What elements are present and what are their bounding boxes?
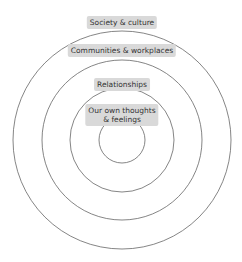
label-communities: Communities & workplaces [68, 44, 176, 57]
concentric-rings [0, 0, 242, 262]
label-self-line2: & feelings [88, 115, 155, 124]
ring-society [13, 31, 231, 249]
label-self: Our own thoughts & feelings [85, 104, 158, 126]
label-relationships: Relationships [94, 78, 150, 91]
label-society: Society & culture [87, 16, 157, 29]
label-self-line1: Our own thoughts [88, 106, 155, 115]
